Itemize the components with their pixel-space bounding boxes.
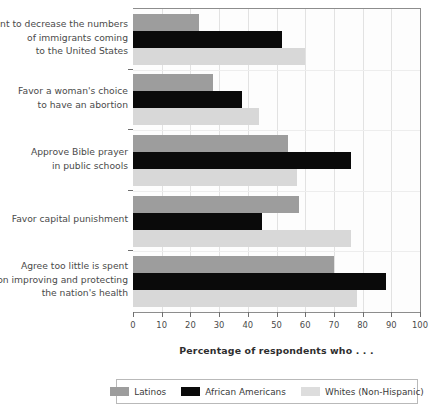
- x-axis-tick-60: [305, 312, 306, 317]
- bar-2-0: [133, 135, 288, 152]
- bar-0-2: [133, 48, 305, 65]
- y-axis-label-line: in public schools: [0, 159, 128, 173]
- gridline-80: [363, 9, 364, 312]
- y-axis-label-0: Want to decrease the numbersof immigrant…: [0, 17, 128, 58]
- legend: Latinos African Americans Whites (Non-Hi…: [116, 379, 418, 404]
- bar-2-2: [133, 169, 297, 186]
- x-axis-tick-label-30: 30: [204, 320, 234, 330]
- y-axis-label-line: to the United States: [0, 44, 128, 58]
- y-axis-label-line: Favor capital punishment: [0, 212, 128, 226]
- bar-4-1: [133, 273, 386, 290]
- x-axis-tick-20: [190, 312, 191, 317]
- bar-3-1: [133, 213, 262, 230]
- x-axis-tick-30: [219, 312, 220, 317]
- x-axis-tick-label-90: 90: [376, 320, 406, 330]
- legend-label-whites: Whites (Non-Hispanic): [325, 387, 424, 397]
- x-axis-tick-label-10: 10: [147, 320, 177, 330]
- y-axis-label-line: to have an abortion: [0, 98, 128, 112]
- x-axis-tick-10: [162, 312, 163, 317]
- bar-0-0: [133, 14, 199, 31]
- legend-swatch-whites: [301, 387, 320, 396]
- y-axis-tick: [128, 250, 133, 251]
- bar-2-1: [133, 152, 351, 169]
- y-axis-tick: [128, 69, 133, 70]
- x-axis-tick-70: [334, 312, 335, 317]
- category-separator: [133, 251, 420, 252]
- legend-swatch-latinos: [110, 387, 129, 396]
- x-axis-tick-label-100: 100: [405, 320, 435, 330]
- y-axis-label-line: Agree too little is spent: [0, 259, 128, 273]
- bar-1-1: [133, 91, 242, 108]
- x-axis-tick-label-50: 50: [262, 320, 292, 330]
- legend-item-latinos: Latinos: [110, 387, 166, 397]
- x-axis-tick-0: [133, 312, 134, 317]
- bar-3-2: [133, 230, 351, 247]
- x-axis-tick-label-60: 60: [290, 320, 320, 330]
- y-axis-label-line: Favor a woman's choice: [0, 84, 128, 98]
- y-axis-tick: [128, 129, 133, 130]
- x-axis-tick-label-40: 40: [233, 320, 263, 330]
- x-axis-tick-100: [420, 312, 421, 317]
- legend-label-african-americans: African Americans: [205, 387, 286, 397]
- x-axis-tick-40: [248, 312, 249, 317]
- category-separator: [133, 70, 420, 71]
- bar-1-2: [133, 108, 259, 125]
- x-axis-tick-50: [277, 312, 278, 317]
- x-axis-tick-90: [391, 312, 392, 317]
- x-axis-tick-label-80: 80: [348, 320, 378, 330]
- category-separator: [133, 130, 420, 131]
- y-axis-label-2: Approve Bible prayerin public schools: [0, 145, 128, 172]
- y-axis-label-3: Favor capital punishment: [0, 212, 128, 226]
- x-axis-tick-label-20: 20: [175, 320, 205, 330]
- x-axis-tick-80: [363, 312, 364, 317]
- x-axis-title: Percentage of respondents who . . .: [133, 345, 420, 356]
- y-axis-label-line: of immigrants coming: [0, 31, 128, 45]
- legend-swatch-african-americans: [181, 387, 200, 396]
- bar-1-0: [133, 74, 213, 91]
- bar-0-1: [133, 31, 282, 48]
- y-axis-label-line: Approve Bible prayer: [0, 145, 128, 159]
- legend-item-african-americans: African Americans: [181, 387, 286, 397]
- bar-4-2: [133, 290, 357, 307]
- legend-label-latinos: Latinos: [134, 387, 166, 397]
- y-axis-label-1: Favor a woman's choiceto have an abortio…: [0, 84, 128, 111]
- y-axis-label-4: Agree too little is spenton improving an…: [0, 259, 128, 300]
- gridline-90: [391, 9, 392, 312]
- x-axis-tick-label-70: 70: [319, 320, 349, 330]
- plot-area: [133, 8, 421, 313]
- category-separator: [133, 191, 420, 192]
- bar-4-0: [133, 256, 334, 273]
- legend-item-whites: Whites (Non-Hispanic): [301, 387, 424, 397]
- x-axis-tick-label-0: 0: [118, 320, 148, 330]
- y-axis-label-line: the nation's health: [0, 286, 128, 300]
- y-axis-tick: [128, 190, 133, 191]
- y-axis-label-line: on improving and protecting: [0, 273, 128, 287]
- bar-3-0: [133, 196, 299, 213]
- bar-chart: Want to decrease the numbersof immigrant…: [0, 0, 440, 415]
- y-axis-label-line: Want to decrease the numbers: [0, 17, 128, 31]
